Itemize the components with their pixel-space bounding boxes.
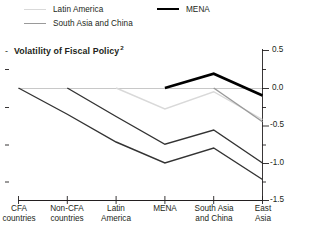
left-axis-minor-ticks <box>5 70 9 183</box>
data-series-layer <box>19 74 263 180</box>
x-category-line-2: Asia <box>231 214 295 224</box>
y-tick-label-1: 0.0 <box>272 83 283 92</box>
y-tick-label-3: -1.0 <box>270 158 284 167</box>
x-category-label-east-asia: East Asia <box>231 204 295 224</box>
x-category-line-2: America <box>84 214 148 224</box>
series-line-cfa-countries <box>19 88 263 180</box>
y-tick-label-2: -0.5 <box>270 120 284 129</box>
y-axis-major-ticks <box>262 51 269 201</box>
x-category-line-1: East <box>231 204 295 214</box>
series-line-latin-america <box>116 88 262 120</box>
series-line-non-cfa-countries <box>67 88 262 163</box>
y-tick-label-0: 0.5 <box>272 45 283 54</box>
y-tick-label-4: -1.5 <box>270 195 284 204</box>
